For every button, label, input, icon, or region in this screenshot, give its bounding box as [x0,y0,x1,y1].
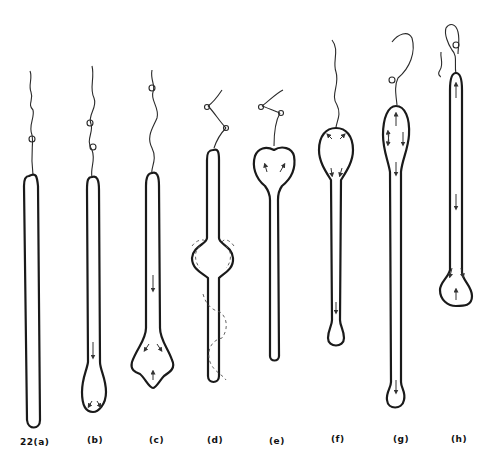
thread [262,90,283,146]
column-f [319,128,353,346]
column-g [383,106,409,408]
panel-a [24,71,40,428]
thread [392,34,413,105]
panel-f [319,40,353,346]
thread [332,40,339,128]
label-a: 22(a) [20,437,49,447]
panel-h [439,25,472,306]
column-c [132,173,174,388]
panel-e [254,90,295,361]
thread [30,71,33,175]
thread [445,25,458,74]
label-g: (g) [393,434,409,444]
label-d: (d) [207,435,223,445]
column-d [192,149,233,382]
figure-22-diagram [0,0,495,465]
column-e [254,148,295,361]
label-h: (h) [451,434,467,444]
thread [208,90,226,148]
column-b [82,177,106,412]
label-c: (c) [149,435,164,445]
panel-g [383,34,413,408]
column-a [24,174,40,427]
label-f: (f) [331,434,345,444]
panel-b [82,66,106,412]
panel-d [192,90,234,382]
label-e: (e) [269,436,285,446]
column-h [440,73,472,306]
label-b: (b) [87,435,103,445]
panel-c [132,70,174,388]
